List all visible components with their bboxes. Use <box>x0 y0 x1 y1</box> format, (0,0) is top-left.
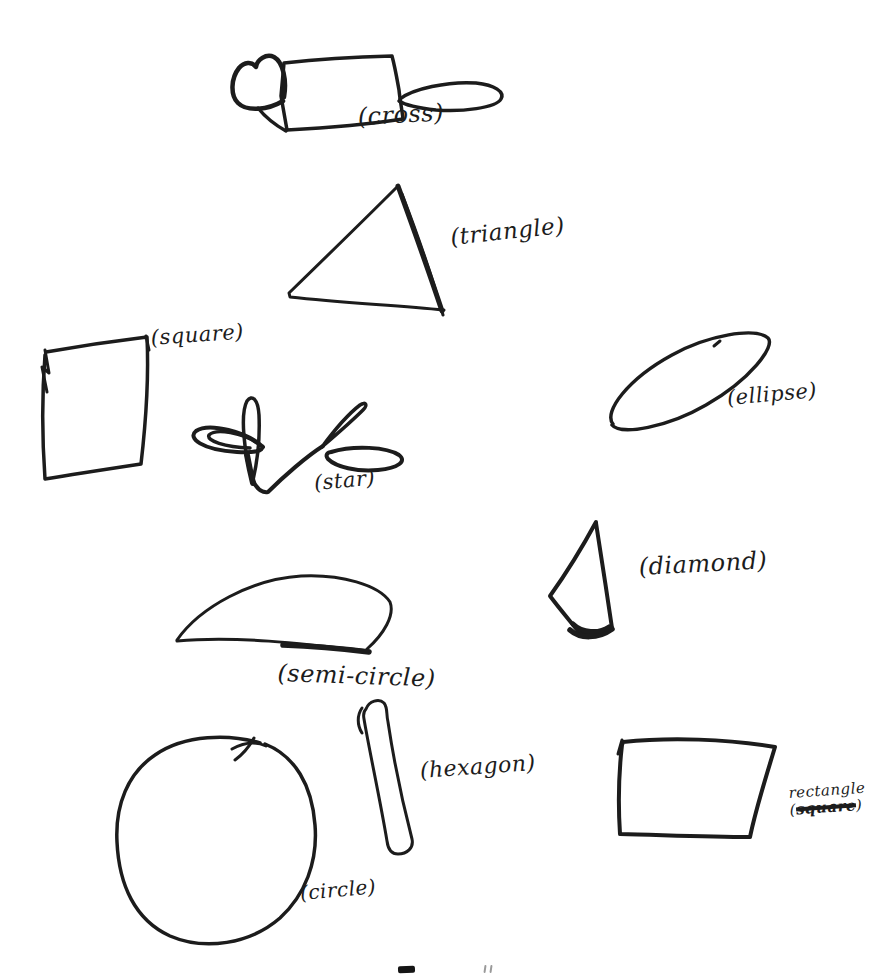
label-semi-circle: (semi-circle) <box>277 659 436 693</box>
sketch-canvas <box>0 0 896 974</box>
hexagon-drawing <box>358 708 362 733</box>
star-drawing <box>209 432 257 448</box>
label-cross: (cross) <box>357 98 445 130</box>
cross-drawing <box>232 56 285 109</box>
scanned-sketch-page: (cross) (triangle) (square) (ellipse) (s… <box>0 0 896 974</box>
rectangle-drawing <box>619 739 775 837</box>
label-rectangle: rectangle (square) <box>788 780 867 820</box>
hexagon-drawing <box>364 701 413 854</box>
circle-drawing <box>117 737 316 944</box>
circle-drawing <box>235 738 254 760</box>
square-drawing <box>43 337 148 479</box>
diamond-drawing <box>573 624 609 632</box>
star-drawing <box>253 446 323 492</box>
semi-circle-drawing <box>283 645 369 652</box>
ellipse-drawing <box>611 333 770 430</box>
star-drawing <box>247 455 253 483</box>
ellipse-drawing <box>714 341 720 346</box>
triangle-drawing <box>402 194 443 315</box>
cross-drawing <box>258 108 286 131</box>
cutoff-caption-fragment <box>398 966 415 974</box>
diamond-drawing <box>550 522 612 634</box>
star-drawing <box>322 403 366 447</box>
